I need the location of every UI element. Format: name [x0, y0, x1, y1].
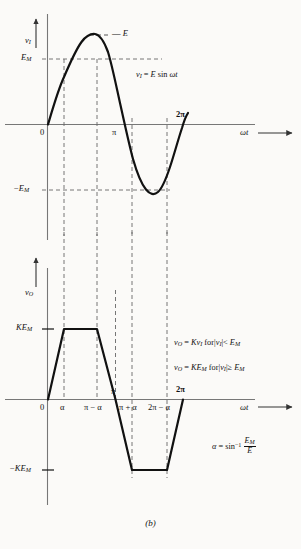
figure-container: vI EM −EM — E 0 π 2π ωt vI = E sin ωt vO… — [0, 0, 301, 549]
bottom-x-axis-label: ωt — [240, 403, 248, 412]
top-xtick-0: 0 — [40, 128, 44, 137]
top-tick-label-em-negative: −EM — [14, 184, 29, 194]
top-xtick-2pi: 2π — [176, 110, 185, 119]
bottom-xtick-alpha: α — [60, 403, 64, 412]
bottom-equation-1: vO = KvI for|vI|< EM — [174, 339, 240, 348]
bottom-xtick-0: 0 — [40, 403, 44, 412]
top-equation: vI = E sin ωt — [136, 71, 178, 80]
waveform-drawing — [0, 0, 301, 549]
top-y-axis-label: vI — [25, 36, 31, 46]
top-x-axis-label: ωt — [240, 128, 248, 137]
bottom-equation-2: vO = KEM for|vI|≥ EM — [174, 364, 244, 373]
top-tick-label-em-positive: EM — [21, 53, 31, 63]
bottom-tick-label-kem-negative: −KEM — [10, 464, 31, 474]
figure-caption: (b) — [0, 518, 301, 528]
bottom-xtick-2pi-minus-alpha: 2π − α — [148, 403, 170, 412]
bottom-xtick-2pi: 2π — [176, 385, 185, 394]
bottom-xtick-pi: π — [111, 387, 115, 396]
top-peak-label-e: — E — [112, 29, 128, 38]
alpha-definition-equation: α = sin−1 EME — [212, 437, 256, 455]
top-xtick-pi: π — [112, 128, 116, 137]
bottom-xtick-pi-plus-alpha: π + α — [119, 403, 137, 412]
bottom-y-axis-label: vO — [25, 288, 33, 298]
bottom-tick-label-kem-positive: KEM — [16, 323, 32, 333]
bottom-xtick-pi-minus-alpha: π − α — [84, 403, 102, 412]
